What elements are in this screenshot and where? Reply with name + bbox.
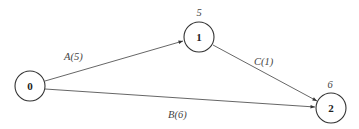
node-2: 2 6 (316, 79, 346, 123)
edge-a-label: A(5) (63, 51, 83, 63)
node-0: 0 (15, 71, 45, 101)
edge-b-line (45, 89, 315, 107)
edge-a: A(5) (45, 41, 183, 81)
node-1-label: 1 (196, 31, 202, 43)
network-diagram: A(5) B(6) C(1) 0 1 5 2 6 (0, 0, 359, 129)
node-2-label: 2 (328, 102, 334, 114)
edge-c: C(1) (213, 45, 317, 101)
node-2-time: 6 (327, 79, 333, 90)
edge-c-line (213, 45, 317, 101)
edge-b: B(6) (45, 89, 315, 121)
node-0-label: 0 (27, 80, 33, 92)
edge-b-label: B(6) (168, 109, 187, 121)
node-1-time: 5 (196, 7, 201, 18)
node-1: 1 5 (184, 7, 214, 52)
edge-c-label: C(1) (254, 56, 274, 68)
